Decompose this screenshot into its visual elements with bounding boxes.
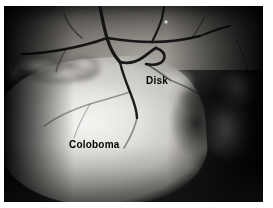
specular-highlight <box>164 20 168 24</box>
top-left-vignette <box>4 6 124 84</box>
annotation-disk: Disk <box>146 76 168 86</box>
fundus-photograph <box>4 6 263 202</box>
annotation-coloboma: Coloboma <box>69 140 120 150</box>
bottom-vignette <box>4 144 263 202</box>
fundus-figure: Disk Coloboma <box>0 0 273 208</box>
